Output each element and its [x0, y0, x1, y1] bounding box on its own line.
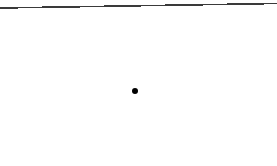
figure-canvas — [0, 0, 277, 166]
data-point — [132, 88, 138, 94]
top-border-line — [0, 4, 277, 9]
top-border-rule — [0, 0, 277, 14]
right-border-rule — [0, 0, 277, 166]
